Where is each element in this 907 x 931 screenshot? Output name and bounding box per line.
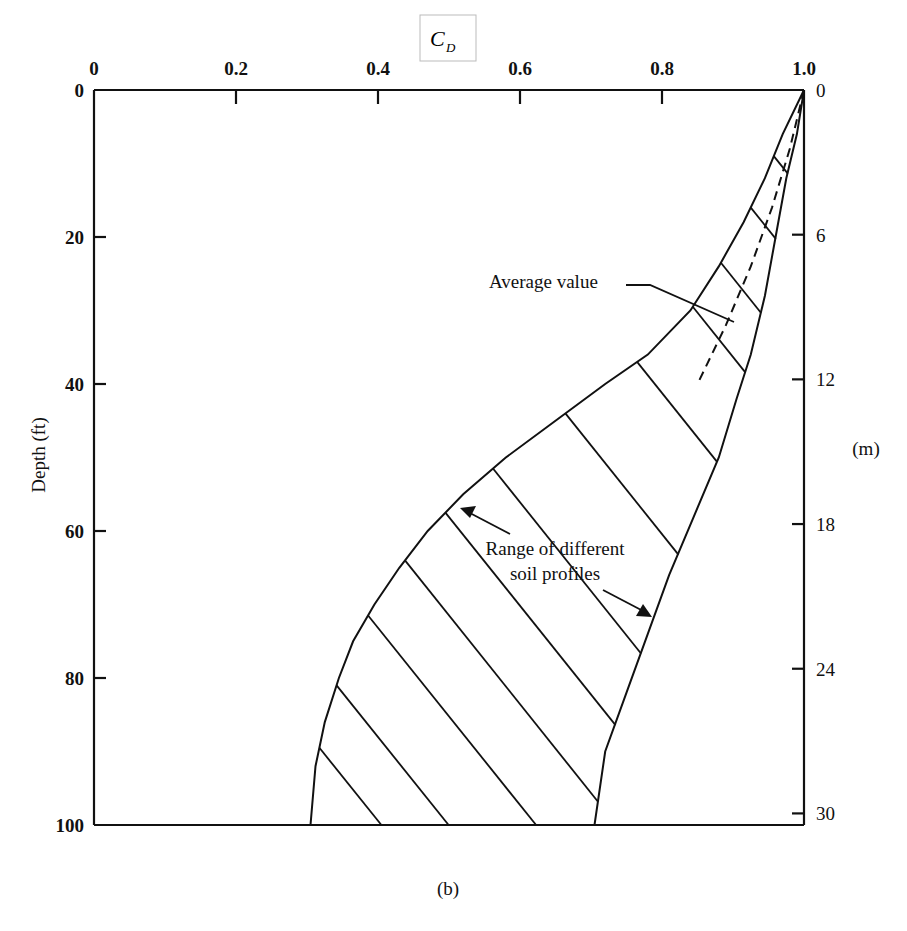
annotation-range-line1: Range of different [486,538,626,559]
upper-bound-curve [595,90,805,825]
hatch-line [368,616,536,826]
hatch-line [751,208,776,239]
x-axis-title-main: C [430,26,445,51]
hatch-line [693,307,746,373]
y-axis-title-right: (m) [852,438,879,460]
annotation-range-leader-right [603,590,645,612]
x-tick-label: 0.6 [508,58,532,79]
annotation-range-arrowhead-right [636,604,652,617]
hatch-line [637,362,717,462]
hatching [319,156,787,825]
x-tick-label: 0.8 [650,58,674,79]
hatch-line [405,560,598,801]
y-tick-label-left: 80 [65,668,84,689]
annotation-range-line2: soil profiles [510,563,600,584]
y-tick-label-right: 18 [816,514,835,535]
hatch-line [337,685,449,825]
hatch-line [721,263,761,313]
ticks: 00.20.40.60.81.00204060801000612182430 [56,58,836,836]
hatch-line [565,413,678,554]
y-tick-label-left: 100 [56,815,85,836]
annotation-average-leader [626,285,734,322]
annotation-average: Average value [489,271,734,322]
x-axis-title-sub: D [445,40,456,55]
panel-label: (b) [437,878,459,900]
y-axis-title-left: Depth (ft) [28,417,50,492]
y-tick-label-right: 6 [816,225,826,246]
y-tick-label-left: 60 [65,521,84,542]
y-tick-label-left: 20 [65,227,84,248]
x-tick-label: 0.4 [366,58,390,79]
annotation-average-label: Average value [489,271,598,292]
series-group [311,90,805,825]
y-tick-label-left: 0 [75,80,85,101]
annotation-range-arrowhead-left [460,506,476,518]
average-value-curve [698,90,805,384]
x-tick-label: 0.2 [224,58,248,79]
y-tick-label-right: 12 [816,369,835,390]
y-tick-label-left: 40 [65,374,84,395]
x-axis-title: C D [420,15,476,61]
annotation-range: Range of different soil profiles [460,506,652,617]
axes [94,90,804,825]
cd-depth-chart: C D 00.20.40.60.81.002040608010006121824… [0,0,907,931]
y-tick-label-right: 24 [816,659,836,680]
hatch-line [319,748,381,825]
y-tick-label-right: 0 [816,80,826,101]
annotation-range-leader-left [468,512,510,534]
x-tick-label: 0 [89,58,99,79]
y-tick-label-right: 30 [816,803,835,824]
hatch-line [493,469,641,654]
x-tick-label: 1.0 [792,58,816,79]
lower-bound-curve [311,90,805,825]
